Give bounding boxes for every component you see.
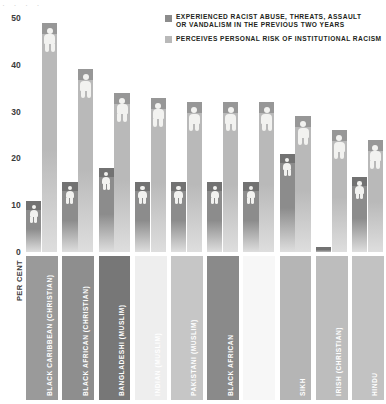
person-pictogram-icon [42, 23, 57, 57]
x-label-text-5: BLACK AFRICAN [227, 335, 234, 396]
x-label-text-2: BANGLADESHI (MUSLIM) [118, 304, 125, 396]
x-label-block-fill [135, 256, 167, 400]
bar-7-series-0 [280, 154, 295, 252]
x-label-text-1: BLACK AFRICAN (CHRISTIAN) [82, 286, 89, 396]
x-label-block-fill [352, 256, 384, 400]
bar-2-series-1 [114, 93, 129, 252]
x-label-block-fill [62, 256, 94, 400]
legend-label-0-line2: OR VANDALISM IN THE PREVIOUS TWO YEARS [176, 21, 345, 28]
bar-8-series-1 [332, 130, 347, 252]
bar-0-series-1 [42, 23, 57, 252]
x-label-block-0: BLACK CARIBBEAN (CHRISTIAN) [24, 256, 60, 404]
person-pictogram-icon [207, 182, 222, 208]
x-label-block-2: BANGLADESHI (MUSLIM) [96, 256, 132, 404]
person-pictogram-icon [295, 116, 310, 150]
y-tick-10: 10 [11, 201, 21, 210]
plot-area [24, 18, 386, 252]
person-pictogram-icon [26, 201, 41, 227]
x-label-text-7: SIKH [299, 378, 306, 396]
bar-9-series-0 [352, 177, 367, 252]
bar-group-5 [205, 18, 241, 252]
x-label-block-6 [241, 256, 277, 404]
bar-8-series-0 [316, 247, 331, 252]
bar-6-series-0 [243, 182, 258, 252]
x-label-block-fill [207, 256, 239, 400]
x-label-block-fill [171, 256, 203, 400]
legend-item-0: EXPERIENCED RACIST ABUSE, THREATS, ASSAU… [165, 13, 383, 30]
bar-group-4 [169, 18, 205, 252]
bar-group-9 [350, 18, 386, 252]
x-label-block-1: BLACK AFRICAN (CHRISTIAN) [60, 256, 96, 404]
y-tick-30: 30 [11, 107, 21, 116]
person-pictogram-icon [332, 130, 347, 164]
person-pictogram-icon [187, 102, 202, 136]
bar-group-8 [314, 18, 350, 252]
person-pictogram-icon [62, 182, 77, 208]
x-label-block-fill [99, 256, 131, 400]
x-label-block-8: IRISH (CHRISTIAN) [314, 256, 350, 404]
y-tick-20: 20 [11, 154, 21, 163]
bar-1-series-1 [78, 69, 93, 252]
bar-4-series-0 [171, 182, 186, 252]
person-pictogram-icon [368, 140, 383, 174]
bar-3-series-1 [151, 98, 166, 252]
bar-5-series-1 [223, 102, 238, 252]
bar-0-series-0 [26, 201, 41, 252]
y-axis-title: PER CENT [15, 255, 24, 307]
bar-7-series-1 [295, 116, 310, 252]
x-label-text-3: INDIAN (MUSLIM) [154, 333, 161, 396]
bar-9-series-1 [368, 140, 383, 252]
x-label-text-8: IRISH (CHRISTIAN) [335, 327, 342, 396]
y-tick-40: 40 [11, 61, 21, 70]
person-pictogram-icon [78, 69, 93, 103]
x-label-block-3: INDIAN (MUSLIM) [133, 256, 169, 404]
legend-label-0: EXPERIENCED RACIST ABUSE, THREATS, ASSAU… [176, 13, 362, 30]
bar-3-series-0 [135, 182, 150, 252]
x-label-block-fill [280, 256, 312, 400]
bar-6-series-1 [259, 102, 274, 252]
person-pictogram-icon [223, 102, 238, 136]
legend-label-1-line1: PERCEIVES PERSONAL RISK OF INSTITUTIONAL… [176, 35, 382, 42]
legend-swatch-icon-1 [165, 36, 172, 43]
bar-head-band [316, 247, 331, 252]
bar-1-series-0 [62, 182, 77, 252]
x-label-block-fill [26, 256, 58, 400]
bar-chart: · · · · 01020304050 PER CENT BLACK CARIB… [0, 0, 386, 404]
bar-group-2 [96, 18, 132, 252]
x-label-block-5: BLACK AFRICAN [205, 256, 241, 404]
person-pictogram-icon [280, 154, 295, 180]
x-label-text-9: HINDU [371, 372, 378, 396]
person-pictogram-icon [99, 168, 114, 194]
legend-label-1: PERCEIVES PERSONAL RISK OF INSTITUTIONAL… [176, 35, 382, 43]
legend-label-0-line1: EXPERIENCED RACIST ABUSE, THREATS, ASSAU… [176, 13, 362, 20]
person-pictogram-icon [114, 93, 129, 127]
bar-group-0 [24, 18, 60, 252]
x-label-text-0: BLACK CARIBBEAN (CHRISTIAN) [46, 275, 53, 396]
y-axis: 01020304050 [0, 0, 24, 258]
bar-group-1 [60, 18, 96, 252]
bar-group-7 [277, 18, 313, 252]
person-pictogram-icon [151, 98, 166, 132]
x-label-block-fill [316, 256, 348, 400]
x-label-block-9: HINDU [350, 256, 386, 404]
legend-item-1: PERCEIVES PERSONAL RISK OF INSTITUTIONAL… [165, 35, 383, 44]
bar-group-3 [133, 18, 169, 252]
bar-group-6 [241, 18, 277, 252]
x-label-block-4: PAKISTANI (MUSLIM) [169, 256, 205, 404]
y-tick-50: 50 [11, 14, 21, 23]
x-label-block-fill [243, 256, 275, 400]
bar-5-series-0 [207, 182, 222, 252]
x-label-text-4: PAKISTANI (MUSLIM) [190, 319, 197, 396]
bar-4-series-1 [187, 102, 202, 252]
legend-swatch-icon-0 [165, 15, 172, 22]
person-pictogram-icon [259, 102, 274, 136]
person-pictogram-icon [135, 182, 150, 208]
x-label-block-7: SIKH [277, 256, 313, 404]
x-axis-label-blocks: BLACK CARIBBEAN (CHRISTIAN)BLACK AFRICAN… [24, 256, 386, 404]
person-pictogram-icon [243, 182, 258, 208]
person-pictogram-icon [352, 177, 367, 203]
legend: EXPERIENCED RACIST ABUSE, THREATS, ASSAU… [165, 13, 383, 48]
bar-2-series-0 [99, 168, 114, 252]
person-pictogram-icon [171, 182, 186, 208]
